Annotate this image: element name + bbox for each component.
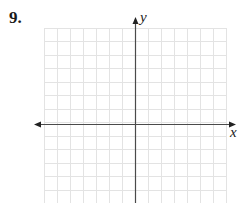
y-axis-label: y — [138, 9, 147, 25]
x-axis-label: x — [229, 124, 237, 140]
y-axis-up-arrow-icon — [133, 17, 139, 24]
coordinate-plane: y x — [0, 0, 245, 203]
x-axis-left-arrow-icon — [34, 122, 41, 128]
